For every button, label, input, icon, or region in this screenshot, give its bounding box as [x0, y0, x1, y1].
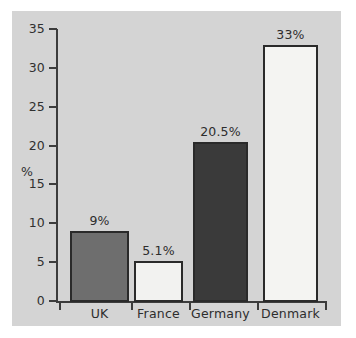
bar	[193, 142, 248, 302]
y-axis-tick-label: 30	[29, 62, 45, 74]
y-axis-tick	[49, 183, 57, 185]
y-axis-tick-label: 25	[29, 101, 45, 113]
x-axis-category-label: Denmark	[245, 307, 336, 320]
y-axis-tick	[49, 106, 57, 108]
y-axis-tick	[49, 261, 57, 263]
bar	[134, 261, 183, 302]
bar	[70, 231, 129, 302]
bar	[263, 45, 318, 302]
y-axis-tick	[49, 28, 57, 30]
y-axis-tick-label: 35	[29, 23, 45, 35]
y-axis-tick-label: 0	[37, 295, 45, 307]
y-axis-tick-label: 20	[29, 140, 45, 152]
y-axis-tick-label: 15	[29, 178, 45, 190]
y-axis-tick	[49, 67, 57, 69]
bar-value-label: 20.5%	[178, 125, 263, 138]
chart-figure: % 05101520253035 9%5.1%20.5%33% UKFrance…	[0, 0, 356, 338]
y-axis-tick-label: 5	[37, 256, 45, 268]
y-axis-tick-label: 10	[29, 217, 45, 229]
bar-value-label: 33%	[248, 28, 333, 41]
bar-value-label: 5.1%	[119, 244, 198, 257]
bar-value-label: 9%	[55, 214, 144, 227]
y-axis-tick	[49, 300, 57, 302]
y-axis-tick	[49, 145, 57, 147]
